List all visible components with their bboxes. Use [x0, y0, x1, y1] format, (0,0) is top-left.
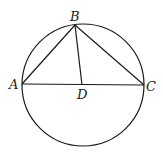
segment-bd [75, 25, 82, 85]
diagram-canvas: B A C D [0, 0, 163, 155]
segment-ac-diameter [22, 84, 144, 85]
geometry-diagram: B A C D [0, 0, 163, 155]
segment-bc [75, 25, 144, 85]
label-d: D [76, 87, 88, 102]
label-b: B [69, 9, 80, 24]
label-c: C [146, 79, 156, 94]
label-a: A [8, 77, 18, 92]
